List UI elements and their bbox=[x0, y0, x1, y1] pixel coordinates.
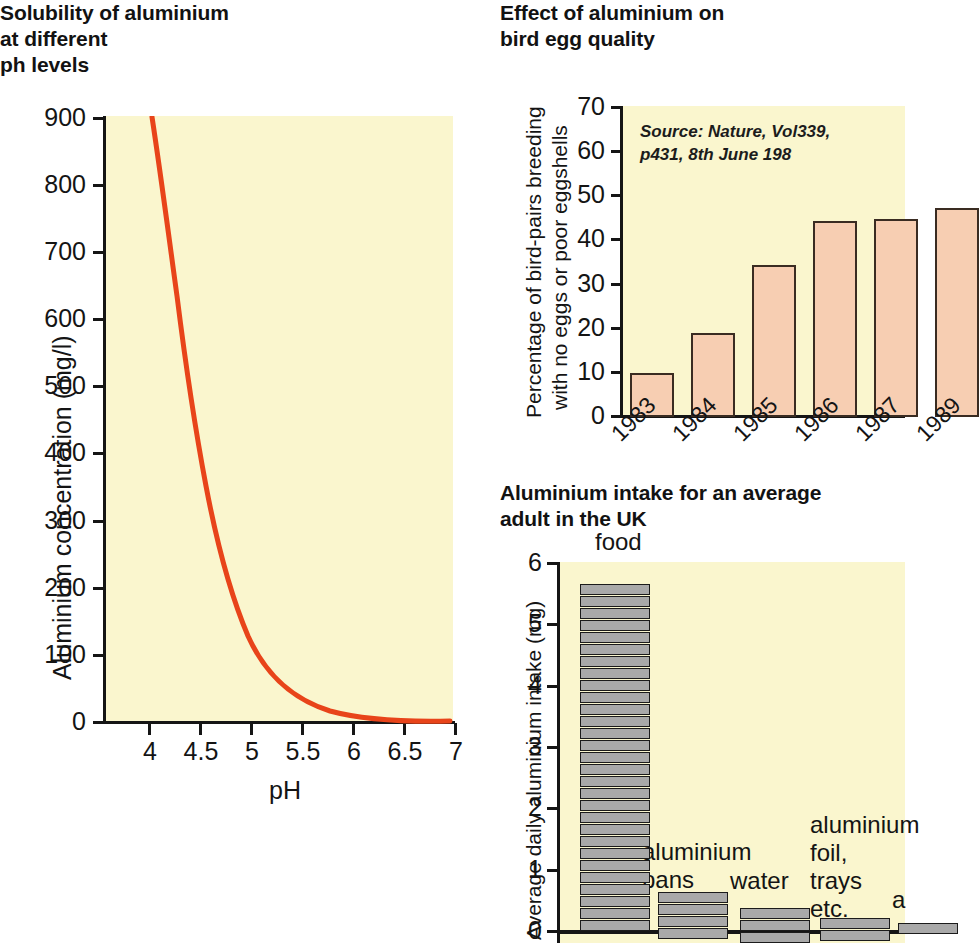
intake-bar-water bbox=[740, 908, 810, 932]
egg-quality-y-axis-label-line2: with no eggs or poor eggshells bbox=[548, 125, 572, 410]
bar-1985 bbox=[752, 265, 796, 417]
solubility-chart-title: Solubility of aluminium at different ph … bbox=[0, 0, 420, 78]
intake-chart-title: Aluminium intake for an average adult in… bbox=[500, 480, 900, 532]
intake-bar-last bbox=[898, 923, 958, 933]
intake-bar-foil bbox=[820, 918, 890, 932]
egg-quality-y-axis-label-line1: Percentage of bird-pairs breeding bbox=[522, 106, 546, 418]
egg-quality-chart-title: Effect of aluminium on bird egg quality bbox=[500, 0, 880, 52]
bar-1987 bbox=[874, 219, 918, 417]
y-tick-label: 70 bbox=[545, 94, 605, 119]
bar-1986 bbox=[813, 221, 857, 417]
y-tick-label: 700 bbox=[0, 239, 86, 264]
y-tick-label: 800 bbox=[0, 172, 86, 197]
y-tick-label: 600 bbox=[0, 306, 86, 331]
intake-bar-food bbox=[580, 584, 650, 932]
intake-y-axis-label: Average daily aluminium intake (mg) bbox=[522, 601, 546, 940]
solubility-y-axis-label: Aluminium concentration (mg/l) bbox=[48, 335, 77, 680]
intake-bar-pans bbox=[658, 892, 728, 932]
solubility-curve bbox=[105, 116, 455, 724]
y-tick-label: 900 bbox=[0, 105, 86, 130]
intake-y-axis bbox=[557, 562, 560, 943]
intake-chart-panel: Aluminium intake for an average adult in… bbox=[500, 480, 905, 943]
y-tick-label: 0 bbox=[0, 709, 86, 734]
solubility-x-axis-label: pH bbox=[240, 776, 330, 805]
egg-quality-chart-panel: Effect of aluminium on bird egg quality … bbox=[500, 0, 905, 480]
egg-quality-source-note: Source: Nature, Vol339, p431, 8th June 1… bbox=[640, 120, 920, 166]
solubility-chart-panel: Solubility of aluminium at different ph … bbox=[0, 0, 500, 943]
intake-label-foil: aluminium foil, trays etc. bbox=[810, 811, 960, 923]
y-tick-label: 6 bbox=[500, 550, 542, 575]
bar-1989 bbox=[935, 208, 979, 417]
x-tick-label: 7 bbox=[416, 739, 496, 764]
intake-label-food: food bbox=[595, 528, 715, 556]
intake-label-last: a bbox=[892, 886, 932, 914]
